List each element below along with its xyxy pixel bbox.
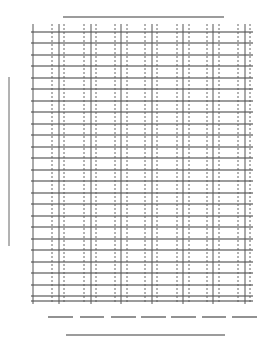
form-canvas (0, 0, 273, 343)
ruled-grid-table (31, 24, 253, 304)
blank-grid-form (0, 0, 273, 343)
